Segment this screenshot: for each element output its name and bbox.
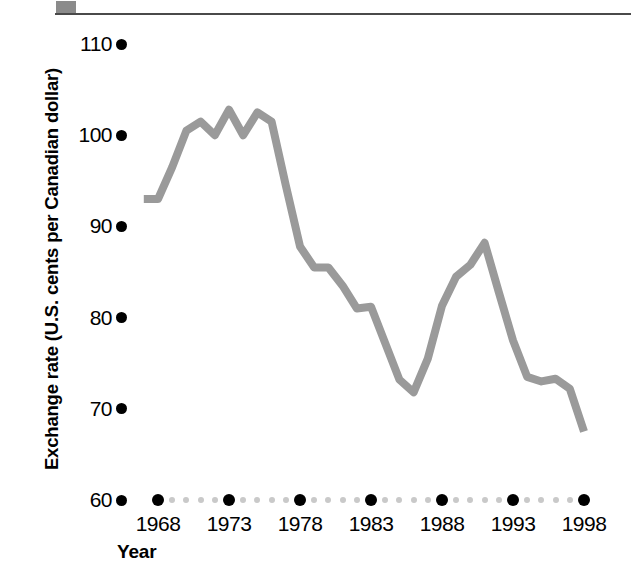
x-tick-label-1983: 1983 <box>336 512 406 536</box>
x-axis-minor-dot <box>425 497 431 503</box>
x-tick-label-1968: 1968 <box>123 512 193 536</box>
x-axis-major-dot <box>365 494 377 506</box>
x-axis-minor-dot <box>198 497 204 503</box>
x-axis-minor-dot <box>496 497 502 503</box>
x-axis-major-dot <box>152 494 164 506</box>
y-tick-label: 60 <box>68 488 112 512</box>
x-tick-label-1988: 1988 <box>407 512 477 536</box>
y-tick-label: 80 <box>68 306 112 330</box>
x-axis-major-dot <box>223 494 235 506</box>
y-tick-dot <box>116 495 127 506</box>
x-tick-label-1978: 1978 <box>265 512 335 536</box>
y-tick-80: 80 <box>68 308 127 328</box>
y-tick-label: 100 <box>68 123 112 147</box>
y-tick-label: 90 <box>68 214 112 238</box>
chart-figure: Exchange rate (U.S. cents per Canadian d… <box>0 0 631 579</box>
x-axis-minor-dot <box>283 497 289 503</box>
y-tick-60: 60 <box>68 490 127 510</box>
y-tick-110: 110 <box>68 34 127 54</box>
x-axis-title: Year <box>117 541 156 563</box>
x-tick-label-1993: 1993 <box>478 512 548 536</box>
x-axis-major-dot <box>507 494 519 506</box>
x-axis-minor-dot <box>567 497 573 503</box>
x-axis-minor-dot <box>212 497 218 503</box>
x-axis-minor-dot <box>269 497 275 503</box>
x-axis-minor-dot <box>482 497 488 503</box>
x-axis-minor-dot <box>411 497 417 503</box>
x-axis-minor-dot <box>340 497 346 503</box>
x-axis-major-dot <box>436 494 448 506</box>
y-tick-dot <box>116 312 127 323</box>
y-tick-dot <box>116 403 127 414</box>
x-axis-minor-dot <box>354 497 360 503</box>
y-tick-100: 100 <box>68 125 127 145</box>
x-tick-label-1998: 1998 <box>549 512 619 536</box>
y-tick-dot <box>116 39 127 50</box>
y-tick-dot <box>116 221 127 232</box>
y-tick-90: 90 <box>68 216 127 236</box>
y-tick-dot <box>116 130 127 141</box>
y-tick-label: 70 <box>68 397 112 421</box>
y-tick-70: 70 <box>68 399 127 419</box>
x-axis-major-dot <box>294 494 306 506</box>
x-axis-major-dot <box>578 494 590 506</box>
x-tick-label-1973: 1973 <box>194 512 264 536</box>
x-axis-minor-dot <box>553 497 559 503</box>
y-tick-label: 110 <box>68 32 112 56</box>
